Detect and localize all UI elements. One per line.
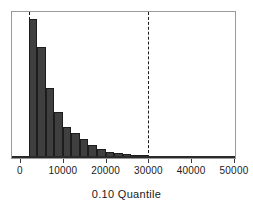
x-axis-tick <box>234 159 235 163</box>
reference-line <box>148 12 149 158</box>
x-axis: 01000020000300004000050000 <box>11 159 236 160</box>
x-axis-tick <box>20 159 21 163</box>
plot-frame <box>11 11 236 159</box>
x-axis-tick-label: 30000 <box>134 165 163 176</box>
histogram-bar <box>46 88 55 158</box>
histogram-figure: 01000020000300004000050000 0.10 Quantile <box>0 0 253 214</box>
histogram-bar <box>63 127 72 158</box>
x-axis-tick <box>63 159 64 163</box>
x-axis-tick-label: 20000 <box>91 165 120 176</box>
histogram-bar <box>80 139 89 158</box>
x-axis-tick-label: 40000 <box>177 165 206 176</box>
histogram-bar <box>29 19 38 159</box>
x-axis-tick-label: 50000 <box>220 165 249 176</box>
baseline-rule <box>12 156 235 158</box>
reference-line <box>29 12 30 158</box>
plot-area <box>12 12 235 158</box>
x-axis-title: 0.10 Quantile <box>0 188 253 200</box>
x-axis-tick <box>148 159 149 163</box>
x-axis-tick-label: 0 <box>17 165 23 176</box>
x-axis-tick-label: 10000 <box>48 165 77 176</box>
histogram-bar <box>37 47 46 158</box>
histogram-bar <box>54 112 63 159</box>
x-axis-tick <box>106 159 107 163</box>
x-axis-tick <box>191 159 192 163</box>
histogram-bar <box>71 133 80 158</box>
